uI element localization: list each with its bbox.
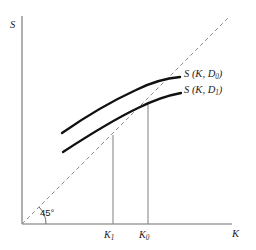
tick-label-k1: K1 xyxy=(104,230,114,240)
curve-label-d1-suffix: ) xyxy=(219,84,223,95)
curve-label-d1-prefix: S (K, D xyxy=(184,84,215,95)
tick-label-k0-subscript: 0 xyxy=(146,234,150,242)
tick-label-k0-base: K xyxy=(139,229,146,240)
y-axis-label: S xyxy=(10,20,15,31)
forty-five-degree-line xyxy=(22,16,230,224)
tick-label-k1-base: K xyxy=(104,229,111,240)
curve-label-d0-suffix: ) xyxy=(219,68,223,79)
curve-label-d1-subscript: 1 xyxy=(215,89,219,97)
angle-label: 45° xyxy=(40,208,54,218)
x-axis-label: K xyxy=(232,229,239,240)
curve-label-d0-prefix: S (K, D xyxy=(184,68,215,79)
curve-label-d1: S (K, D1) xyxy=(184,85,222,96)
tick-label-k1-subscript: 1 xyxy=(111,234,115,242)
economics-supply-diagram: S K K1 K0 45° S (K, D0) S (K, D1) xyxy=(0,0,256,250)
supply-curve-d1 xyxy=(63,93,181,152)
tick-label-k0: K0 xyxy=(139,230,149,240)
curve-label-d0-subscript: 0 xyxy=(215,73,219,81)
curve-label-d0: S (K, D0) xyxy=(184,69,222,80)
plot-canvas xyxy=(0,0,256,250)
